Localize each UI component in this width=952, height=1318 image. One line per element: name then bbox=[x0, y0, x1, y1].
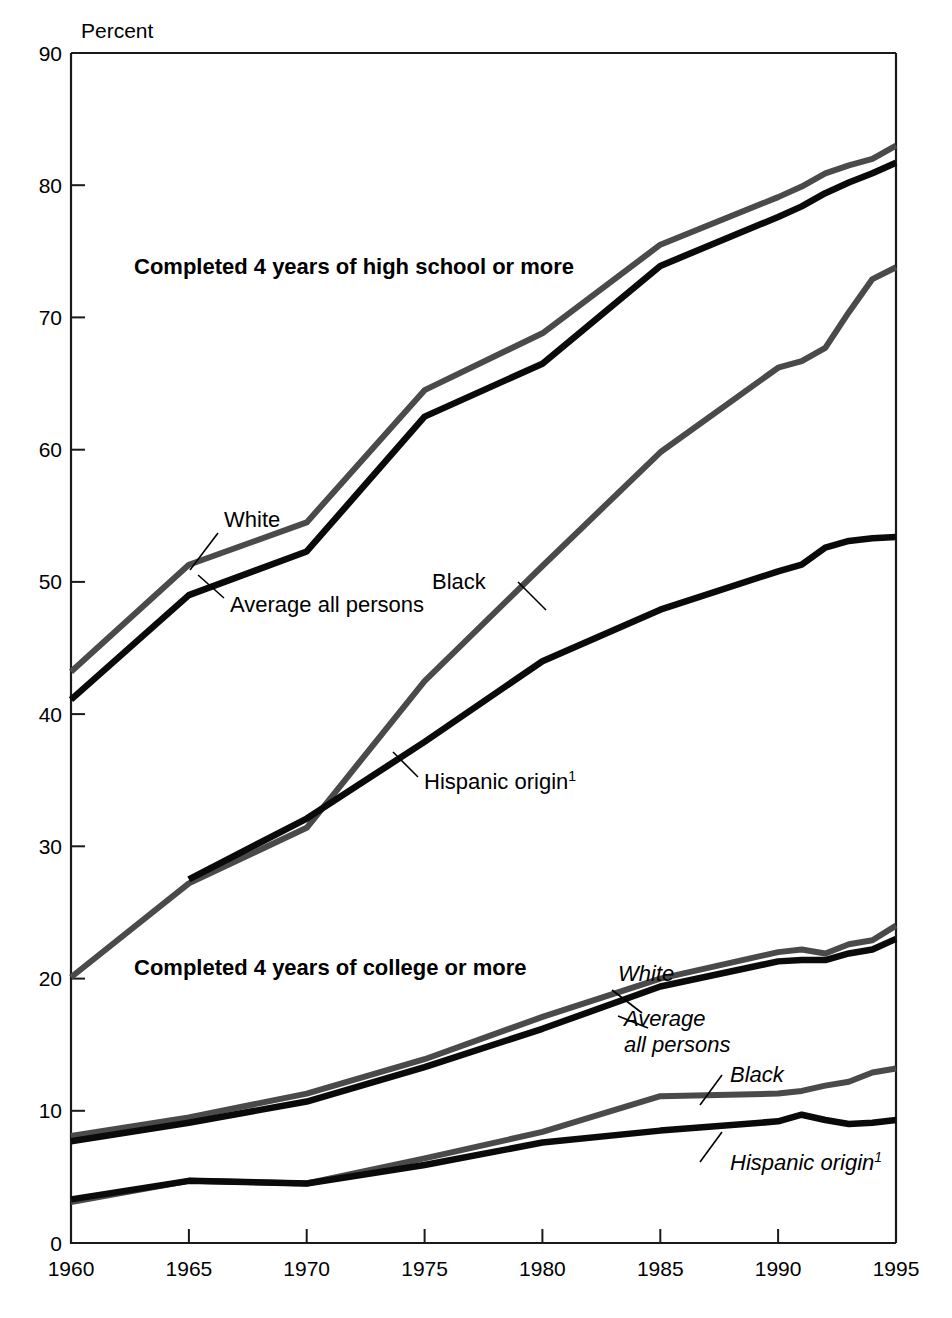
callout-col-hispanic-text: Hispanic origin bbox=[730, 1150, 874, 1175]
group-title-high-school: Completed 4 years of high school or more bbox=[134, 254, 574, 279]
callout-col-white: White bbox=[618, 961, 674, 986]
chart-container: 90 80 70 60 50 40 30 20 10 0 Percent 196… bbox=[0, 0, 952, 1318]
x-tick-label-1980: 1980 bbox=[519, 1257, 566, 1280]
callout-col-average-line2: all persons bbox=[624, 1032, 730, 1057]
y-tick-labels: 90 80 70 60 50 40 30 20 10 0 bbox=[39, 42, 62, 1255]
callout-col-black: Black bbox=[730, 1062, 785, 1087]
callout-hs-average: Average all persons bbox=[230, 592, 424, 617]
leader-hs-black bbox=[518, 582, 546, 610]
y-tick-label-70: 70 bbox=[39, 306, 62, 329]
callout-col-hispanic-group: Hispanic origin1 bbox=[700, 1132, 882, 1175]
callout-col-average-line1: Average bbox=[622, 1006, 706, 1031]
leader-col-hispanic bbox=[700, 1132, 722, 1162]
callout-hs-hispanic-group: Hispanic origin1 bbox=[393, 752, 576, 794]
x-tick-label-1970: 1970 bbox=[283, 1257, 330, 1280]
callout-hs-black: Black bbox=[432, 569, 487, 594]
y-tick-label-30: 30 bbox=[39, 835, 62, 858]
group-title-college: Completed 4 years of college or more bbox=[134, 955, 526, 980]
leader-col-black bbox=[700, 1075, 722, 1105]
x-tick-marks bbox=[71, 1229, 896, 1243]
x-tick-label-1965: 1965 bbox=[166, 1257, 213, 1280]
series-line-1 bbox=[71, 163, 896, 700]
callout-col-hispanic-superscript: 1 bbox=[874, 1149, 882, 1165]
y-tick-label-20: 20 bbox=[39, 967, 62, 990]
series-line-3 bbox=[189, 537, 896, 879]
y-axis-title: Percent bbox=[81, 19, 154, 42]
leader-hs-white bbox=[190, 533, 218, 570]
callout-col-average-group: Average all persons bbox=[618, 1006, 730, 1057]
education-attainment-line-chart: 90 80 70 60 50 40 30 20 10 0 Percent 196… bbox=[0, 0, 952, 1318]
y-tick-label-90: 90 bbox=[39, 42, 62, 65]
y-tick-label-60: 60 bbox=[39, 438, 62, 461]
y-tick-label-40: 40 bbox=[39, 703, 62, 726]
y-tick-label-0: 0 bbox=[50, 1232, 62, 1255]
x-tick-label-1960: 1960 bbox=[48, 1257, 95, 1280]
y-tick-label-80: 80 bbox=[39, 174, 62, 197]
y-tick-label-50: 50 bbox=[39, 570, 62, 593]
y-tick-label-10: 10 bbox=[39, 1099, 62, 1122]
x-tick-label-1975: 1975 bbox=[401, 1257, 448, 1280]
x-tick-label-1985: 1985 bbox=[637, 1257, 684, 1280]
callout-hs-hispanic: Hispanic origin1 bbox=[424, 768, 576, 794]
data-series-layer bbox=[71, 146, 896, 1202]
callout-col-black-group: Black bbox=[700, 1062, 785, 1105]
callout-col-hispanic: Hispanic origin1 bbox=[730, 1149, 882, 1175]
callout-hs-hispanic-superscript: 1 bbox=[568, 768, 576, 784]
x-tick-labels: 1960 1965 1970 1975 1980 1985 1990 1995 bbox=[48, 1257, 920, 1280]
callout-hs-hispanic-text: Hispanic origin bbox=[424, 769, 568, 794]
callout-hs-white: White bbox=[224, 507, 280, 532]
series-line-2 bbox=[71, 267, 896, 977]
x-tick-label-1995: 1995 bbox=[873, 1257, 920, 1280]
x-tick-label-1990: 1990 bbox=[755, 1257, 802, 1280]
